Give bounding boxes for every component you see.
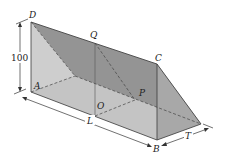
thickness-arrow-right: [204, 128, 209, 132]
thickness-tick: [203, 124, 213, 128]
length-arrow-right: [147, 143, 152, 147]
vertex-label-B: B: [152, 144, 160, 154]
length-arrow-left: [22, 97, 27, 101]
thickness-label: T: [185, 131, 192, 141]
vertex-label-P: P: [138, 88, 146, 98]
thickness-arrow-left: [161, 142, 167, 146]
vertex-label-Q: Q: [90, 30, 98, 40]
vertex-label-D: D: [28, 10, 36, 20]
vertex-label-O: O: [97, 101, 105, 111]
vertex-label-C: C: [155, 53, 162, 63]
height-tick-top: [16, 19, 28, 24]
vertex-label-A: A: [33, 81, 41, 91]
height-label: 100: [11, 53, 28, 63]
length-label: L: [86, 116, 93, 126]
prism-diagram: 100 L T D Q C A O P B: [0, 0, 226, 158]
end-face: [157, 64, 201, 140]
